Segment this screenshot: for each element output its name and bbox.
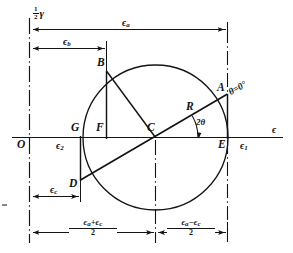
point-label-A: A: [217, 82, 225, 94]
bottom-dim-sum-label: ϵa+ϵc 2: [69, 218, 117, 238]
point-label-C: C: [147, 122, 155, 134]
bottom-dim-diff-label: ϵa−ϵc 2: [167, 218, 215, 238]
origin-label-O: O: [17, 139, 25, 151]
point-label-F: F: [96, 122, 104, 134]
eps2-label: ϵ2: [56, 141, 64, 152]
sum-denominator: 2: [69, 229, 117, 237]
epsilon-axis-label: ϵ: [272, 125, 276, 135]
gamma-axis-label: 1 2 γ: [33, 6, 44, 21]
dim-label-eps-c: ϵc: [48, 185, 59, 196]
mohr-circle-figure: 1 2 γ ϵa ϵb ϵc B A C D E F G O R 2θ θ=0°…: [0, 0, 293, 253]
eps1-label: ϵ1: [240, 141, 248, 152]
angle-label-2theta: 2θ: [196, 118, 205, 127]
diff-denominator: 2: [167, 229, 215, 237]
dim-label-eps-a: ϵa: [120, 18, 132, 29]
gamma-symbol: γ: [39, 8, 45, 19]
dim-label-eps-b: ϵb: [61, 37, 73, 48]
point-label-E: E: [218, 139, 226, 151]
point-label-G: G: [71, 122, 79, 134]
radius-label-R: R: [186, 101, 194, 113]
point-label-D: D: [69, 178, 77, 190]
point-label-B: B: [97, 57, 105, 69]
